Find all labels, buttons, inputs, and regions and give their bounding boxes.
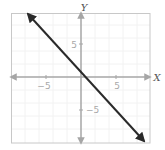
coordinate-plane: −5 5 5 −5 Y X — [0, 0, 165, 150]
y-tick-label-neg5: −5 — [86, 105, 99, 115]
y-tick-label-5: 5 — [71, 40, 77, 50]
x-axis-label: X — [152, 72, 161, 83]
y-axis-label: Y — [81, 2, 89, 13]
x-tick-label-neg5: −5 — [37, 81, 50, 91]
x-tick-label-5: 5 — [114, 81, 120, 91]
